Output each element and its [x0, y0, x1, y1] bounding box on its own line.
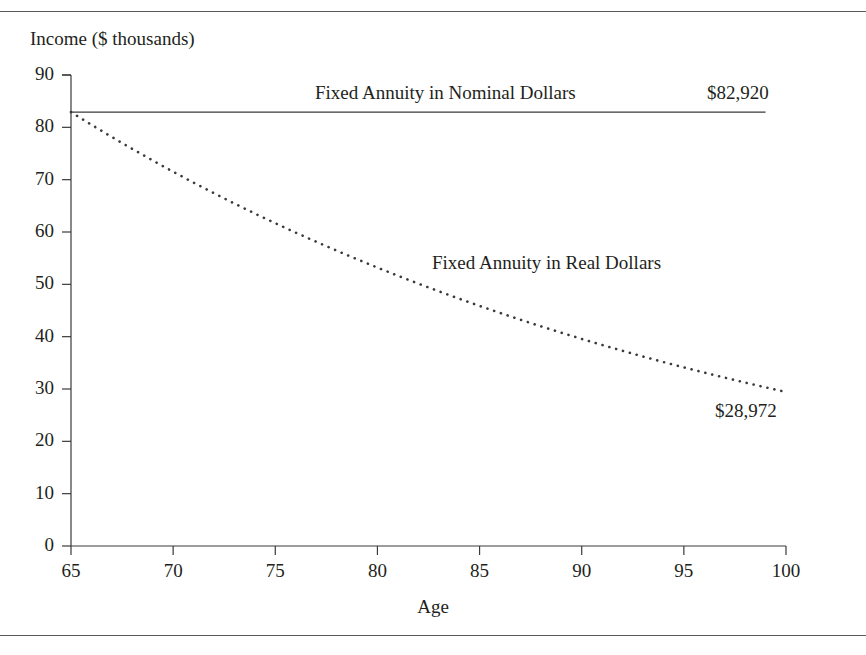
y-tick-label: 20	[14, 430, 54, 450]
x-tick-label: 95	[654, 561, 714, 581]
chart-figure: Income ($ thousands) 0102030405060708090…	[0, 0, 866, 655]
real-dollars-line	[71, 112, 786, 392]
axes	[71, 75, 786, 546]
axis-ticks	[62, 75, 786, 555]
y-tick-label: 80	[14, 116, 54, 136]
y-tick-label: 50	[14, 273, 54, 293]
real-value-label: $28,972	[715, 400, 777, 422]
x-tick-label: 85	[450, 561, 510, 581]
y-tick-label: 10	[14, 483, 54, 503]
y-tick-label: 40	[14, 326, 54, 346]
y-tick-label: 90	[14, 64, 54, 84]
y-tick-label: 0	[14, 535, 54, 555]
data-series	[71, 112, 786, 392]
x-tick-label: 70	[143, 561, 203, 581]
real-series-label: Fixed Annuity in Real Dollars	[432, 252, 661, 274]
x-tick-label: 75	[245, 561, 305, 581]
x-tick-label: 90	[552, 561, 612, 581]
x-axis-title: Age	[0, 596, 866, 618]
nominal-series-label: Fixed Annuity in Nominal Dollars	[315, 82, 576, 104]
x-tick-label: 80	[347, 561, 407, 581]
x-tick-label: 100	[756, 561, 816, 581]
y-tick-label: 70	[14, 169, 54, 189]
nominal-value-label: $82,920	[707, 82, 769, 104]
y-tick-label: 30	[14, 378, 54, 398]
y-tick-label: 60	[14, 221, 54, 241]
x-tick-label: 65	[41, 561, 101, 581]
